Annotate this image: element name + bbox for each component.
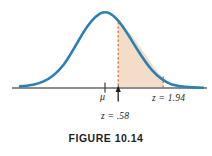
figure-container: μ z = .58 z = 1.94 FIGURE 10.14 — [0, 0, 212, 156]
plot-svg — [0, 0, 212, 128]
mu-label: μ — [100, 92, 105, 102]
figure-caption: FIGURE 10.14 — [0, 132, 212, 144]
z-upper-label: z = 1.94 — [152, 94, 185, 104]
z-lower-label: z = .58 — [101, 112, 129, 122]
normal-distribution-plot — [0, 0, 212, 128]
normal-curve — [20, 12, 203, 87]
